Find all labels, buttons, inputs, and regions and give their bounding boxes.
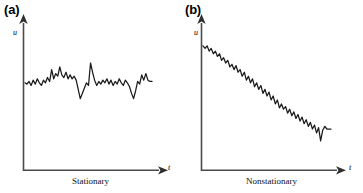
panel-a: (a) u t Stationary <box>0 0 181 193</box>
figure-stationary-vs-nonstationary: (a) u t Stationary (b) u t <box>0 0 363 193</box>
panel-b: (b) u t Nonstationary <box>181 0 362 193</box>
panel-a-signal-line <box>25 63 152 99</box>
panel-b-plot <box>181 0 362 193</box>
panel-a-plot <box>0 0 181 193</box>
panel-b-signal-line <box>203 46 331 141</box>
panel-a-caption: Stationary <box>0 176 181 187</box>
panel-b-caption: Nonstationary <box>181 176 362 187</box>
